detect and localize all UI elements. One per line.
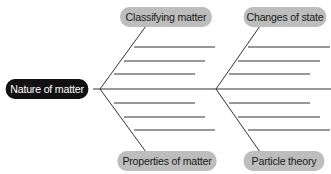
bone-properties-of-matter — [100, 89, 146, 152]
branch-label-particle-theory: Particle theory — [244, 151, 325, 171]
diagram-lines — [93, 26, 331, 152]
branch-label-changes-of-state: Changes of state — [244, 7, 327, 27]
bone-classifying-matter — [100, 26, 146, 89]
bone-particle-theory — [216, 89, 260, 152]
branch-label-properties-of-matter: Properties of matter — [117, 151, 216, 171]
head-label-nature-of-matter: Nature of matter — [6, 79, 89, 99]
branch-label-classifying-matter: Classifying matter — [120, 7, 212, 27]
bone-changes-of-state — [216, 26, 260, 89]
